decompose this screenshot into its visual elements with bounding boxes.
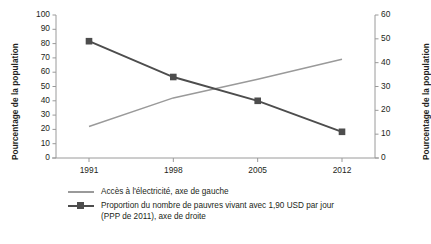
series-line-0 <box>89 59 342 126</box>
series-line-1 <box>89 41 342 132</box>
square-marker-icon <box>77 202 84 209</box>
data-point-marker <box>86 38 93 45</box>
legend-label-pauvrete: Proportion du nombre de pauvres vivant a… <box>101 200 334 223</box>
data-point-marker <box>254 98 261 105</box>
chart-legend: Accès à l'électricité, axe de gauche Pro… <box>66 186 406 225</box>
legend-key-line-plain <box>66 186 96 197</box>
legend-label-electricite: Accès à l'électricité, axe de gauche <box>101 186 229 198</box>
legend-item-pauvrete: Proportion du nombre de pauvres vivant a… <box>66 200 406 223</box>
legend-item-electricite: Accès à l'électricité, axe de gauche <box>66 186 406 198</box>
data-point-marker <box>339 129 346 136</box>
legend-key-line-marker <box>66 200 96 211</box>
data-point-marker <box>170 74 177 81</box>
